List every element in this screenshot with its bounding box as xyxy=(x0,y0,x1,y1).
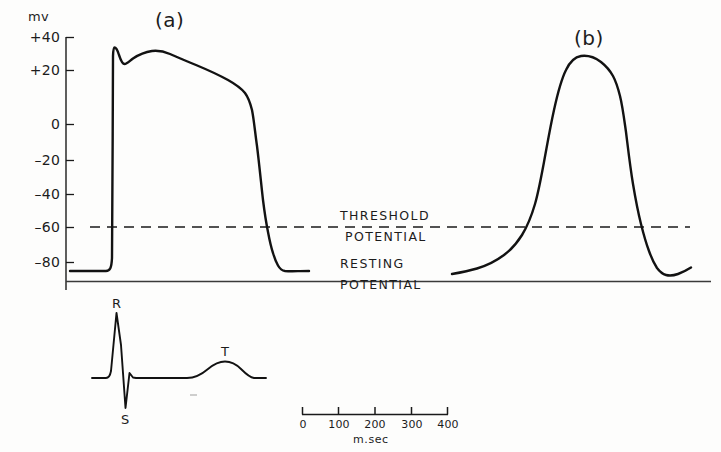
resting-potential-label-line2: POTENTIAL xyxy=(340,279,422,292)
ecg-label-s: S xyxy=(121,413,130,426)
time-scale-label-400: 400 xyxy=(437,419,459,430)
y-tick-label-20: +20 xyxy=(14,63,60,77)
y-axis-group xyxy=(66,37,74,290)
action-potential-curve-a xyxy=(70,48,309,272)
y-tick-label-minus40: –40 xyxy=(14,187,60,201)
action-potential-curve-b xyxy=(452,56,691,276)
panel-label-b: (b) xyxy=(574,28,604,48)
threshold-potential-label-line2: POTENTIAL xyxy=(345,231,427,244)
y-tick-label-minus60: –60 xyxy=(14,220,60,234)
time-scale-bar-group xyxy=(302,407,448,415)
time-scale-label-200: 200 xyxy=(364,419,386,430)
time-scale-label-300: 300 xyxy=(401,419,423,430)
ecg-label-r: R xyxy=(112,297,121,310)
figure-canvas: mv +40 +20 0 –20 –40 –60 –80 (a) (b) THR… xyxy=(0,0,721,452)
threshold-potential-label-line1: THRESHOLD xyxy=(340,210,430,223)
ecg-waveform xyxy=(92,313,266,408)
time-scale-label-0: 0 xyxy=(292,419,314,430)
y-tick-label-minus20: –20 xyxy=(14,153,60,167)
y-tick-label-minus80: –80 xyxy=(14,255,60,269)
panel-label-a: (a) xyxy=(155,10,184,30)
ecg-label-t: T xyxy=(221,345,229,358)
y-tick-label-0: 0 xyxy=(14,117,60,131)
resting-potential-label-line1: RESTING xyxy=(340,258,405,271)
time-scale-unit-label: m.sec xyxy=(353,434,389,445)
figure-vector-layer xyxy=(0,0,721,452)
y-tick-label-40: +40 xyxy=(14,30,60,44)
time-scale-label-100: 100 xyxy=(328,419,350,430)
y-axis-unit-label: mv xyxy=(28,10,49,23)
